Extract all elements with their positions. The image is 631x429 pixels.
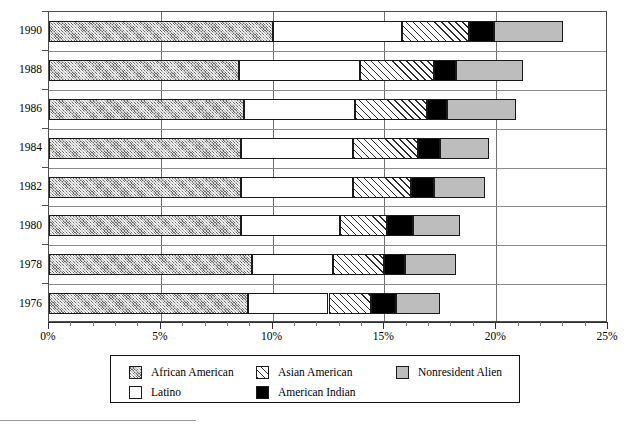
stacked-bar-1988[interactable] xyxy=(49,60,523,81)
bar-segment-amindian-1976[interactable] xyxy=(371,293,396,314)
x-tick-minor xyxy=(93,322,94,326)
y-tick-label-1990: 1990 xyxy=(0,24,42,36)
bar-segment-nonresident-1978[interactable] xyxy=(405,254,456,275)
legend-swatch-asian-icon xyxy=(256,366,269,379)
legend-item-asian[interactable]: Asian American xyxy=(256,364,352,380)
bar-segment-latino-1982[interactable] xyxy=(241,177,353,198)
bar-segment-nonresident-1976[interactable] xyxy=(396,293,441,314)
bar-segment-asian-1982[interactable] xyxy=(353,177,411,198)
bar-row-1988 xyxy=(49,51,608,90)
bar-segment-latino-1984[interactable] xyxy=(241,138,353,159)
bar-segment-latino-1978[interactable] xyxy=(252,254,332,275)
y-tick-mark xyxy=(42,205,48,206)
bar-segment-asian-1980[interactable] xyxy=(340,215,387,236)
y-tick-label-1978: 1978 xyxy=(0,258,42,270)
y-tick-mark xyxy=(42,50,48,51)
x-tick-label-5%: 5% xyxy=(135,330,185,343)
x-tick-major xyxy=(495,322,496,329)
bar-segment-nonresident-1988[interactable] xyxy=(456,60,523,81)
legend-item-african[interactable]: African American xyxy=(129,364,234,380)
stacked-bar-1978[interactable] xyxy=(49,254,456,275)
x-tick-minor xyxy=(137,322,138,326)
bar-segment-asian-1990[interactable] xyxy=(402,21,469,42)
bar-segment-amindian-1986[interactable] xyxy=(427,99,447,120)
plot-area xyxy=(48,11,607,322)
bar-segment-latino-1986[interactable] xyxy=(244,99,356,120)
bar-segment-amindian-1988[interactable] xyxy=(434,60,456,81)
x-tick-label-15%: 15% xyxy=(358,330,408,343)
legend-item-nonresident[interactable]: Nonresident Alien xyxy=(396,364,502,380)
legend-item-amindian[interactable]: American Indian xyxy=(256,384,356,400)
chart-legend: African AmericanAsian AmericanNonresiden… xyxy=(110,355,520,403)
x-tick-minor xyxy=(361,322,362,326)
legend-swatch-amindian-icon xyxy=(256,386,269,399)
stacked-bar-1990[interactable] xyxy=(49,21,563,42)
bar-segment-nonresident-1986[interactable] xyxy=(447,99,516,120)
bar-row-1986 xyxy=(49,90,608,129)
bar-segment-nonresident-1980[interactable] xyxy=(413,215,460,236)
bar-segment-latino-1988[interactable] xyxy=(239,60,360,81)
bar-segment-latino-1976[interactable] xyxy=(248,293,328,314)
y-tick-mark xyxy=(42,283,48,284)
stacked-bar-1980[interactable] xyxy=(49,215,460,236)
x-tick-label-0%: 0% xyxy=(23,330,73,343)
x-tick-major xyxy=(383,322,384,329)
stacked-bar-1984[interactable] xyxy=(49,138,489,159)
bar-segment-african-1984[interactable] xyxy=(49,138,241,159)
x-tick-minor xyxy=(562,322,563,326)
bar-segment-african-1982[interactable] xyxy=(49,177,241,198)
x-tick-minor xyxy=(518,322,519,326)
bar-segment-african-1976[interactable] xyxy=(49,293,248,314)
bar-segment-latino-1980[interactable] xyxy=(241,215,339,236)
bar-row-1980 xyxy=(49,206,608,245)
bar-segment-amindian-1984[interactable] xyxy=(418,138,440,159)
legend-item-latino[interactable]: Latino xyxy=(129,384,181,400)
x-tick-major xyxy=(607,322,608,329)
bar-segment-asian-1984[interactable] xyxy=(353,138,418,159)
x-tick-minor xyxy=(249,322,250,326)
bar-segment-asian-1978[interactable] xyxy=(333,254,384,275)
y-tick-mark xyxy=(42,89,48,90)
stacked-bar-chart: 19761978198019821984198619881990 0%5%10%… xyxy=(0,0,631,429)
y-tick-label-1976: 1976 xyxy=(0,297,42,309)
y-tick-mark xyxy=(42,128,48,129)
x-tick-major xyxy=(48,322,49,329)
bar-row-1982 xyxy=(49,168,608,207)
bar-segment-nonresident-1984[interactable] xyxy=(440,138,489,159)
bar-segment-latino-1990[interactable] xyxy=(273,21,403,42)
bar-segment-asian-1988[interactable] xyxy=(360,60,434,81)
y-tick-mark xyxy=(42,11,48,12)
bar-segment-nonresident-1990[interactable] xyxy=(494,21,563,42)
bar-row-1984 xyxy=(49,129,608,168)
bar-segment-asian-1986[interactable] xyxy=(355,99,427,120)
legend-label: Latino xyxy=(151,386,181,399)
bar-segment-african-1988[interactable] xyxy=(49,60,239,81)
legend-swatch-african-icon xyxy=(129,366,142,379)
x-tick-label-20%: 20% xyxy=(470,330,520,343)
bar-segment-nonresident-1982[interactable] xyxy=(434,177,485,198)
bar-row-1976 xyxy=(49,284,608,323)
y-tick-mark xyxy=(42,244,48,245)
bar-segment-amindian-1978[interactable] xyxy=(384,254,404,275)
bar-segment-amindian-1980[interactable] xyxy=(387,215,414,236)
legend-label: Asian American xyxy=(278,366,352,379)
stacked-bar-1986[interactable] xyxy=(49,99,516,120)
bar-segment-amindian-1982[interactable] xyxy=(411,177,433,198)
x-tick-minor xyxy=(473,322,474,326)
x-tick-minor xyxy=(227,322,228,326)
bottom-divider xyxy=(0,420,196,421)
stacked-bar-1982[interactable] xyxy=(49,177,485,198)
y-tick-mark xyxy=(42,167,48,168)
x-tick-minor xyxy=(182,322,183,326)
bar-segment-amindian-1990[interactable] xyxy=(469,21,494,42)
bar-segment-african-1986[interactable] xyxy=(49,99,244,120)
x-tick-minor xyxy=(339,322,340,326)
bar-segment-african-1990[interactable] xyxy=(49,21,273,42)
bar-segment-african-1978[interactable] xyxy=(49,254,252,275)
x-tick-minor xyxy=(316,322,317,326)
chart-title xyxy=(0,0,631,2)
x-tick-minor xyxy=(428,322,429,326)
stacked-bar-1976[interactable] xyxy=(49,293,440,314)
bar-segment-african-1980[interactable] xyxy=(49,215,241,236)
bar-segment-asian-1976[interactable] xyxy=(329,293,371,314)
